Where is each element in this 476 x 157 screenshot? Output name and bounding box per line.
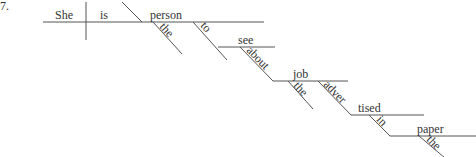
sentence-diagram: She is person the to see about job the a… [0, 0, 476, 157]
word-article-person: the [157, 20, 177, 40]
predicate-divider [122, 2, 142, 22]
word-verb: is [100, 8, 108, 22]
word-about: about [244, 43, 273, 72]
word-paper: paper [417, 122, 444, 136]
word-article-job: the [291, 79, 311, 99]
word-subject: She [55, 8, 73, 22]
word-to: to [198, 19, 215, 35]
word-participle-part1: adver [321, 77, 350, 106]
word-participle-part2: tised [358, 101, 381, 115]
